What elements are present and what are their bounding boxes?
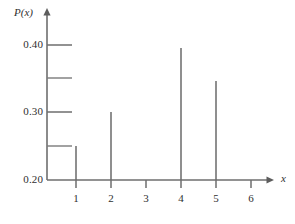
y-tick-label-0-30: 0.30 <box>1 105 43 117</box>
x-axis-arrow-icon <box>267 176 275 183</box>
y-tick-label-0-20: 0.20 <box>1 173 43 185</box>
y-tick-label-0-40: 0.40 <box>1 38 43 50</box>
y-axis-arrow-icon <box>43 8 50 16</box>
x-axis-title: x <box>281 172 286 184</box>
x-tick-label-3: 3 <box>136 192 156 204</box>
x-tick-label-2: 2 <box>101 192 121 204</box>
x-tick-label-6: 6 <box>241 192 261 204</box>
x-tick-label-5: 5 <box>206 192 226 204</box>
x-tick-label-1: 1 <box>66 192 86 204</box>
chart-plot-area <box>0 0 295 224</box>
y-axis-title: P(x) <box>14 6 33 18</box>
probability-distribution-chart: P(x) x 0.40 0.30 0.20 1 2 3 4 5 6 <box>0 0 295 224</box>
x-tick-label-4: 4 <box>171 192 191 204</box>
